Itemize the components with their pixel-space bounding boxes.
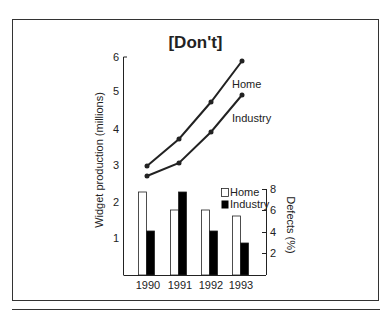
line-industry [145,93,245,179]
bar-industry-1992 [210,231,218,275]
line-label-industry: Industry [232,112,272,124]
line-home [145,59,245,169]
bar-industry-1990 [147,231,155,275]
line-label-home: Home [232,78,261,90]
bar-home-1990 [139,192,147,275]
svg-text:8: 8 [270,183,276,195]
chart-plot: 6 5 4 3 2 1 Widget production (millions)… [0,0,391,318]
svg-text:2: 2 [113,196,119,208]
svg-text:5: 5 [113,85,119,97]
svg-text:1990: 1990 [136,279,160,291]
legend-swatch-home [222,189,229,197]
left-axis-ticks: 6 5 4 3 2 1 [113,51,119,244]
legend-label-industry: Industry [230,198,270,210]
svg-text:6: 6 [113,51,119,63]
bar-industry-1991 [179,192,187,275]
legend-label-home: Home [230,186,259,198]
svg-text:2: 2 [270,247,276,259]
svg-text:1992: 1992 [199,279,223,291]
bar-home-1992 [202,210,210,275]
right-axis-ticks: 8 6 4 2 [270,183,276,259]
bar-home-1991 [171,210,179,275]
svg-text:1993: 1993 [229,279,253,291]
bar-industry-1993 [241,243,249,275]
svg-text:4: 4 [270,226,276,238]
svg-text:1: 1 [113,232,119,244]
svg-text:1991: 1991 [168,279,192,291]
svg-text:3: 3 [113,159,119,171]
svg-text:4: 4 [113,123,119,135]
legend-swatch-industry [222,201,229,209]
svg-text:6: 6 [270,204,276,216]
x-axis-ticks: 1990 1991 1992 1993 [136,279,253,291]
bar-home-1993 [233,216,241,275]
right-axis-label: Defects (%) [285,196,297,253]
left-axis-label: Widget production (millions) [93,92,105,228]
